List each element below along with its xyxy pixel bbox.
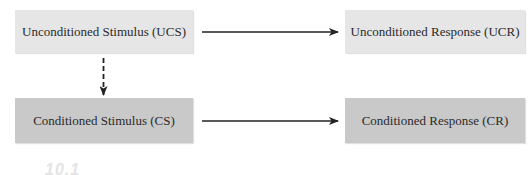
node-unconditioned-stimulus: Unconditioned Stimulus (UCS) [15, 10, 193, 53]
node-conditioned-response: Conditioned Response (CR) [345, 98, 525, 143]
node-unconditioned-response: Unconditioned Response (UCR) [345, 10, 525, 53]
node-label: Conditioned Stimulus (CS) [33, 113, 175, 129]
node-label: Unconditioned Response (UCR) [351, 24, 520, 40]
node-conditioned-stimulus: Conditioned Stimulus (CS) [15, 98, 193, 143]
node-label: Unconditioned Stimulus (UCS) [22, 24, 186, 40]
node-label: Conditioned Response (CR) [362, 113, 509, 129]
figure-caption-fragment: 10.1 [45, 161, 80, 175]
